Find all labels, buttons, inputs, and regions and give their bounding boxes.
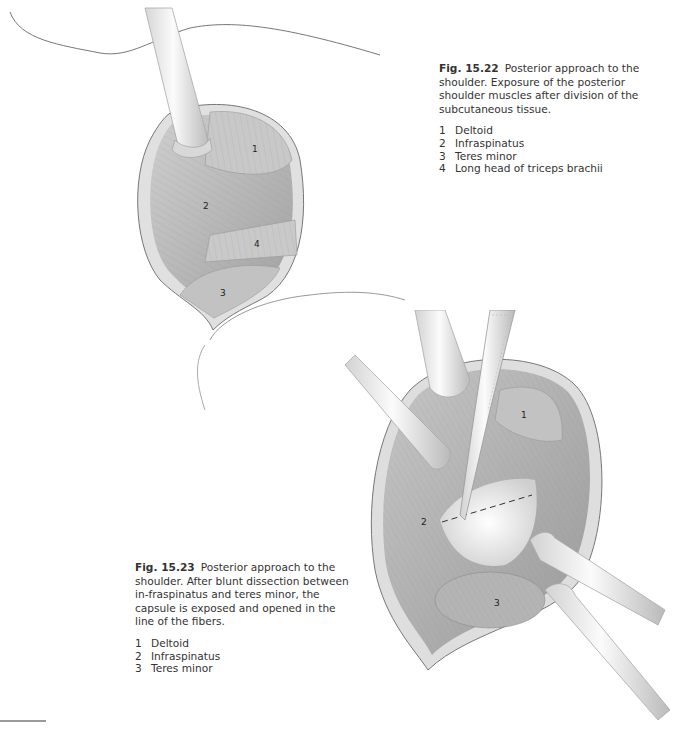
legend-item: 3Teres minor: [135, 662, 357, 675]
legend-item: 3Teres minor: [439, 150, 671, 163]
fig1-label-2: 2: [203, 201, 209, 211]
legend-item: 2Infraspinatus: [439, 137, 671, 150]
fig-15-23-caption: Fig. 15.23Posterior approach to the shou…: [135, 561, 357, 629]
fig1-label-4: 4: [254, 239, 260, 249]
retractor-instrument: [145, 8, 208, 151]
legend-item: 4Long head of triceps brachii: [439, 162, 671, 175]
figure-number: Fig. 15.22: [439, 62, 499, 74]
legend-item: 2Infraspinatus: [135, 650, 357, 663]
fig-15-22-legend: 1Deltoid 2Infraspinatus 3Teres minor 4Lo…: [439, 124, 671, 174]
fig-15-22-caption-block: Fig. 15.22Posterior approach to the shou…: [439, 62, 671, 175]
fig2-label-3: 3: [494, 598, 500, 608]
fig2-label-1: 1: [521, 410, 527, 420]
fig-15-22-caption: Fig. 15.22Posterior approach to the shou…: [439, 62, 671, 116]
fig2-label-2: 2: [421, 517, 427, 527]
figure-number: Fig. 15.23: [135, 561, 195, 573]
footnote-rule: [0, 720, 46, 722]
legend-item: 1Deltoid: [135, 637, 357, 650]
fig-15-23-illustration: 1 2 3: [340, 310, 676, 729]
fig-15-23-caption-block: Fig. 15.23Posterior approach to the shou…: [135, 561, 357, 675]
fig1-label-3: 3: [220, 288, 226, 298]
fig-15-23-legend: 1Deltoid 2Infraspinatus 3Teres minor: [135, 637, 357, 675]
fig1-label-1: 1: [252, 144, 258, 154]
legend-item: 1Deltoid: [439, 124, 671, 137]
skin-contour: [10, 12, 380, 55]
